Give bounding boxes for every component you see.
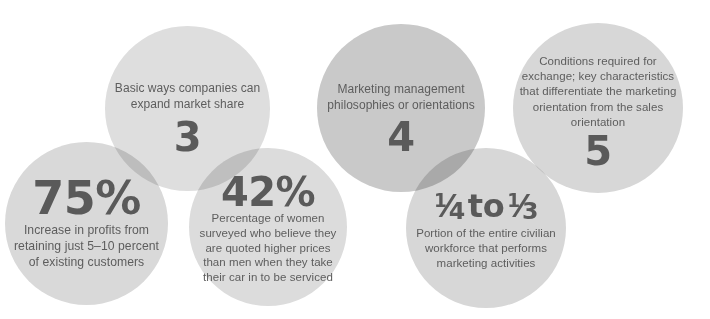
stat-bubble-content: 75% Increase in profits from retaining j… [5,177,168,270]
fraction-denominator: 3 [522,196,538,224]
stat-figure: 42% [221,173,315,211]
stat-figure: 75% [32,177,141,221]
stat-caption: Basic ways companies can expand market s… [109,81,266,113]
stat-bubble-content: Marketing management philosophies or ori… [317,60,485,157]
stat-bubble-content: 42% Percentage of women surveyed who bel… [189,169,347,286]
stat-figure: 3 [174,118,201,156]
infographic-canvas: 75% Increase in profits from retaining j… [0,0,710,319]
stat-bubble-42-percent: 42% Percentage of women surveyed who bel… [189,148,347,306]
stat-bubble-five: Conditions required for exchange; key ch… [513,23,683,193]
stat-figure: 5 [584,132,611,170]
stat-caption: Marketing management philosophies or ori… [321,82,481,114]
stat-bubble-content: 1⁄4to1⁄3 Portion of the entire civilian … [406,185,566,272]
stat-bubble-content: Conditions required for exchange; key ch… [513,46,683,170]
fraction-connector: to [468,187,504,225]
fraction-denominator: 4 [449,196,465,224]
stat-bubble-content: Basic ways companies can expand market s… [105,61,270,156]
stat-caption: Conditions required for exchange; key ch… [517,54,679,130]
fraction-one-third: 1⁄3 [507,191,538,222]
stat-caption: Increase in profits from retaining just … [9,222,164,271]
stat-caption: Percentage of women surveyed who believe… [193,211,343,286]
stat-figure: 4 [387,118,414,156]
stat-figure-fraction: 1⁄4to1⁄3 [434,191,538,222]
stat-caption: Portion of the entire civilian workforce… [410,226,562,272]
fraction-one-quarter: 1⁄4 [434,191,465,222]
